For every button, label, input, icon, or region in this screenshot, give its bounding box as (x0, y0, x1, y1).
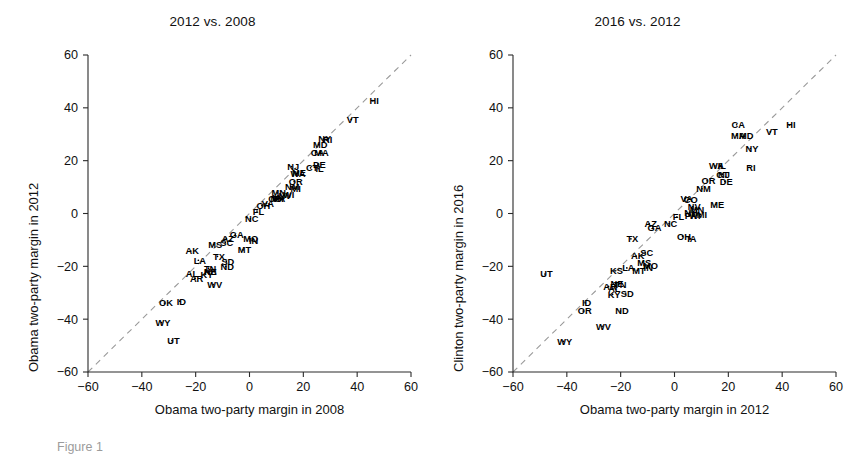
scatter-point-label: MD (739, 131, 754, 141)
y-tick-label: −20 (482, 260, 503, 274)
scatter-point-label: ME (710, 200, 724, 210)
scatter-point-label: NY (745, 144, 759, 154)
y-tick-label: 0 (496, 207, 503, 221)
scatter-point-label: MO (243, 234, 258, 244)
y-tick-label: 40 (64, 101, 78, 115)
scatter-point-label: WI (689, 211, 700, 221)
scatter-point-label: LA (194, 256, 207, 266)
scatter-point-label: CA (731, 120, 745, 130)
x-tick-label: −20 (610, 380, 631, 394)
scatter-point-label: VT (347, 115, 359, 125)
scatter-point-label: HI (370, 96, 379, 106)
scatter-point-label: TX (626, 234, 639, 244)
y-tick-label: −60 (57, 365, 78, 379)
scatter-point-label: NM (696, 184, 711, 194)
scatter-point-label: VT (766, 127, 778, 137)
scatter-point-label: TX (213, 252, 226, 262)
y-tick-label: 20 (489, 154, 503, 168)
scatter-point-label: RI (746, 163, 755, 173)
x-tick-label: 0 (246, 380, 253, 394)
y-tick-label: 60 (64, 48, 78, 62)
y-tick-label: 40 (489, 101, 503, 115)
x-axis-label-left: Obama two-party margin in 2008 (88, 402, 411, 417)
scatter-point-label: AR (190, 274, 204, 284)
scatter-point-label: SD (621, 289, 634, 299)
scatter-point-label: WV (207, 280, 223, 290)
scatter-point-label: IA (687, 234, 697, 244)
x-tick-label: 0 (671, 380, 678, 394)
x-axis-label-right: Obama two-party margin in 2012 (513, 402, 836, 417)
y-tick-label: 20 (64, 154, 78, 168)
scatter-panel-left: 2012 vs. 2008 −60−40−200204060−60−40−200… (0, 0, 425, 459)
x-tick-label: 40 (350, 380, 364, 394)
y-tick-label: 60 (489, 48, 503, 62)
scatter-point-label: ID (177, 297, 187, 307)
scatter-point-label: DE (720, 177, 733, 187)
scatter-point-label: WY (155, 318, 171, 328)
x-tick-label: −40 (556, 380, 577, 394)
scatter-point-label: OK (159, 298, 173, 308)
scatter-point-label: CA (311, 148, 325, 158)
figure-root: 2012 vs. 2008 −60−40−200204060−60−40−200… (0, 0, 851, 459)
figure-caption: Figure 1 (57, 440, 103, 454)
x-tick-label: −60 (77, 380, 98, 394)
x-tick-label: 20 (296, 380, 310, 394)
scatter-point-label: TN (614, 280, 627, 290)
y-tick-label: −40 (482, 313, 503, 327)
scatter-point-label: HI (786, 120, 795, 130)
scatter-panel-right: 2016 vs. 2012 −60−40−200204060−60−40−200… (425, 0, 850, 459)
scatter-point-label: WY (557, 337, 573, 347)
y-axis-label-right: Clinton two-party margin in 2016 (451, 185, 466, 372)
y-tick-label: −60 (482, 365, 503, 379)
x-tick-label: −60 (502, 380, 523, 394)
scatter-point-label: GA (647, 223, 661, 233)
y-tick-label: 0 (71, 207, 78, 221)
scatter-point-label: UT (167, 336, 180, 346)
scatter-point-label: WV (596, 322, 612, 332)
scatter-point-label: NC (245, 214, 259, 224)
x-tick-label: 60 (404, 380, 418, 394)
x-tick-label: 60 (829, 380, 843, 394)
y-tick-label: −40 (57, 313, 78, 327)
scatter-point-label: FL (673, 212, 685, 222)
scatter-point-label: KS (610, 266, 623, 276)
scatter-point-label: UT (540, 269, 553, 279)
scatter-point-label: KY (608, 290, 622, 300)
x-tick-label: 20 (721, 380, 735, 394)
plot-area-right: −60−40−200204060−60−40−200204060HIVTCAMA… (425, 0, 850, 459)
plot-area-left: −60−40−200204060−60−40−200204060HIVTNYRI… (0, 0, 425, 459)
scatter-point-label: MS (208, 240, 222, 250)
x-tick-label: −20 (185, 380, 206, 394)
scatter-point-label: ND (615, 306, 629, 316)
x-tick-label: 40 (775, 380, 789, 394)
scatter-point-label: AK (186, 246, 200, 256)
scatter-point-label: OR (578, 306, 592, 316)
y-axis-label-left: Obama two-party margin in 2012 (26, 183, 41, 372)
y-tick-label: −20 (57, 260, 78, 274)
scatter-point-label: ND (221, 262, 235, 272)
scatter-point-label: AZ (222, 234, 235, 244)
x-tick-label: −40 (131, 380, 152, 394)
scatter-point-label: IN (644, 263, 654, 273)
scatter-point-label: CT (306, 163, 319, 173)
scatter-point-label: MT (238, 245, 252, 255)
